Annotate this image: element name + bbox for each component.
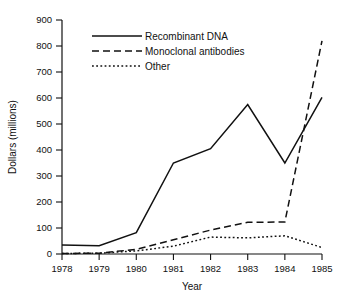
y-tick-label: 900 bbox=[36, 14, 52, 25]
series-line-0 bbox=[62, 97, 322, 245]
x-tick-label: 1984 bbox=[274, 263, 295, 274]
y-tick-label: 0 bbox=[47, 248, 52, 259]
x-tick-label: 1985 bbox=[311, 263, 332, 274]
data-series-group bbox=[62, 41, 322, 254]
x-axis-title: Year bbox=[182, 281, 203, 292]
y-axis-tick-labels: 0100200300400500600700800900 bbox=[36, 14, 52, 259]
x-axis-tick-labels: 19781979198019811982198319841985 bbox=[51, 263, 332, 274]
y-axis-ticks bbox=[56, 20, 62, 254]
chart-container: 0100200300400500600700800900 19781979198… bbox=[0, 0, 345, 306]
y-tick-label: 500 bbox=[36, 118, 52, 129]
x-tick-label: 1982 bbox=[200, 263, 221, 274]
x-axis-ticks bbox=[62, 254, 322, 260]
y-axis: 0100200300400500600700800900 bbox=[36, 14, 62, 259]
x-axis: 19781979198019811982198319841985 bbox=[51, 254, 332, 274]
x-tick-label: 1978 bbox=[51, 263, 72, 274]
y-tick-label: 400 bbox=[36, 144, 52, 155]
series-line-1 bbox=[62, 41, 322, 254]
x-tick-label: 1983 bbox=[237, 263, 258, 274]
legend-label-1: Monoclonal antibodies bbox=[145, 46, 245, 57]
line-chart: 0100200300400500600700800900 19781979198… bbox=[0, 0, 345, 306]
y-tick-label: 300 bbox=[36, 170, 52, 181]
x-tick-label: 1981 bbox=[163, 263, 184, 274]
y-tick-label: 700 bbox=[36, 66, 52, 77]
y-tick-label: 600 bbox=[36, 92, 52, 103]
x-tick-label: 1980 bbox=[126, 263, 147, 274]
legend-label-0: Recombinant DNA bbox=[145, 31, 228, 42]
y-tick-label: 800 bbox=[36, 40, 52, 51]
y-tick-label: 200 bbox=[36, 196, 52, 207]
legend-label-2: Other bbox=[145, 61, 171, 72]
y-tick-label: 100 bbox=[36, 222, 52, 233]
y-axis-title: Dollars (millions) bbox=[7, 100, 18, 174]
x-tick-label: 1979 bbox=[89, 263, 110, 274]
chart-legend: Recombinant DNAMonoclonal antibodiesOthe… bbox=[92, 31, 245, 72]
